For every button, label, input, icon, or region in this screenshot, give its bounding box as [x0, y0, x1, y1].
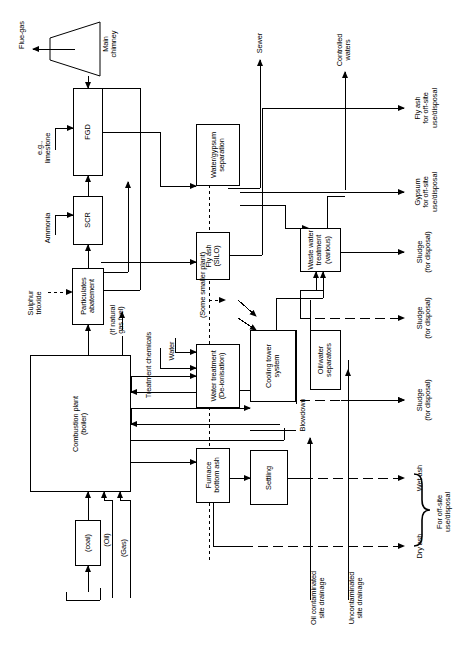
label-sludge-1: Sludge (for disposal) [416, 379, 433, 420]
label-combustion-plant: Combustion plant (boiler) [72, 396, 89, 452]
flow-lines-layer [0, 0, 462, 656]
label-sludge-3: Sludge (for disposal) [416, 231, 433, 272]
label-if-natural-gas-fuel: (If natural gas fuel) [109, 305, 126, 335]
label-controlled-waters: Controlled waters [336, 34, 353, 67]
label-fly-ash-offsite: Fly ash for off-site use/disposal [414, 88, 439, 128]
label-gypsum-offsite: Gypsum for off-site use/disposal [414, 172, 439, 212]
process-flow-diagram: FGD SCR Particulates abatement Main chim… [0, 0, 462, 656]
label-for-offsite-use-disposal: For off-site use/disposal [436, 492, 453, 532]
label-oil-water-separators: Oil/water separators [317, 343, 334, 377]
label-ammonia: Ammonia [44, 213, 52, 244]
label-oil: (Oil) [103, 533, 111, 546]
label-scr: SCR [84, 212, 92, 227]
label-main-chimney: Main chimney [102, 31, 119, 58]
label-some-smaller-plant: (Some smaller plant) [199, 252, 207, 318]
label-cooling-tower-system: Cooling tower system [265, 344, 282, 388]
label-oil-contaminated-site-drainage: Oil contaminated site drainage [310, 571, 327, 625]
label-eg-limestone: e.g., limestone [36, 133, 53, 164]
label-furnace-bottom-ash: Furnace bottom ash [205, 457, 222, 493]
label-blowdown: Blowdown [299, 399, 307, 432]
label-treatment-chemicals: Treatment chemicals [145, 332, 153, 398]
label-water-gypsum-separation: Water/gypsum separation [210, 132, 227, 178]
label-sewer: Sewer [256, 33, 264, 53]
label-sludge-2: Sludge (for disposal) [416, 297, 433, 338]
label-flue-gas: Flue-gas [18, 21, 26, 49]
label-fgd: FGD [84, 124, 92, 139]
label-sulphur-trioxide: Sulphur trioxide [27, 291, 44, 316]
label-gas: (Gas) [120, 539, 128, 557]
label-dry-ash: Dry ash [416, 534, 424, 559]
label-water-treatment: Water treatment (De-ionisation) [210, 350, 227, 401]
label-particulates-abatement: Particulates abatement [80, 277, 97, 314]
label-wet-ash: Wet ash [416, 465, 424, 491]
label-water: Water [168, 342, 176, 361]
label-waste-water-treatment: Waste water treatment (various) [307, 230, 332, 270]
label-uncontaminated-site-drainage: Uncontaminated site drainage [348, 572, 365, 624]
label-settling: Settling [265, 466, 273, 490]
label-coal: (coal) [84, 534, 92, 552]
